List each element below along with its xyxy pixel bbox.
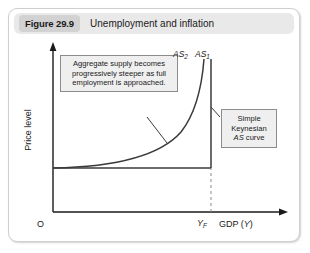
keynesian-line-1: Simple [237, 114, 260, 123]
figure-number-badge: Figure 29.9 [19, 15, 80, 32]
full-employment-label: YF [197, 218, 207, 228]
as1-base: AS [195, 49, 206, 59]
origin-label: O [37, 219, 44, 229]
chart-plot-area: Aggregate supply becomes progressively s… [9, 37, 301, 242]
as1-curve-label: AS1 [195, 49, 210, 59]
keynesian-line-2: Keynesian [231, 124, 266, 133]
as2-base: AS [173, 49, 184, 59]
as2-curve-label: AS2 [173, 49, 188, 59]
figure-panel: Figure 29.9 Unemployment and inflation [8, 8, 300, 242]
full-employment-subscript: F [203, 222, 207, 229]
left-callout-leader-line [147, 117, 167, 143]
x-axis-title-prefix: GDP ( [219, 219, 244, 229]
keynesian-as-italic: AS [234, 133, 244, 142]
as2-subscript: 2 [184, 53, 188, 60]
x-axis-title-suffix: ) [250, 219, 253, 229]
figure-header: Figure 29.9 Unemployment and inflation [14, 13, 294, 34]
keynesian-curve-word: curve [244, 133, 265, 142]
y-axis-title: Price level [23, 95, 33, 165]
x-axis-title: GDP (Y) [219, 219, 253, 229]
keynesian-as-annotation: Simple Keynesian AS curve [221, 109, 277, 148]
as1-subscript: 1 [206, 53, 210, 60]
figure-title: Unemployment and inflation [90, 18, 214, 29]
aggregate-supply-annotation: Aggregate supply becomes progressively s… [60, 55, 178, 92]
x-axis [53, 209, 288, 216]
y-axis [50, 42, 57, 212]
right-callout-leader-line [211, 107, 220, 117]
